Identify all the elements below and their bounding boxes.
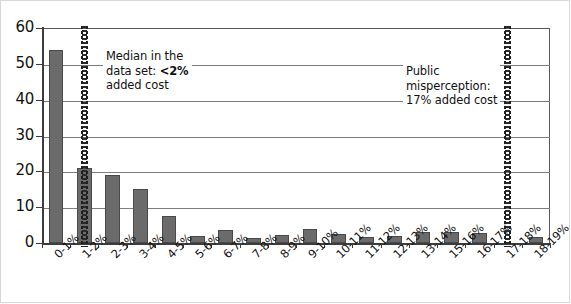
y-tick-mark-20 — [36, 171, 43, 172]
y-tick-label-10: 10 — [2, 199, 34, 214]
bar-0-1pct — [49, 50, 64, 244]
gridline-30 — [42, 137, 550, 138]
misperception-annotation-line3: 17% added cost — [406, 93, 497, 107]
y-tick-label-20: 20 — [2, 163, 34, 178]
bar-3-4pct — [133, 189, 148, 243]
y-tick-mark-30 — [36, 136, 43, 137]
misperception-annotation: Public misperception: 17% added cost — [403, 62, 500, 110]
y-tick-label-30: 30 — [2, 128, 34, 143]
y-tick-mark-10 — [36, 207, 43, 208]
y-tick-mark-40 — [36, 100, 43, 101]
y-tick-label-40: 40 — [2, 92, 34, 107]
gridline-20 — [42, 172, 550, 173]
y-tick-label-0: 0 — [2, 235, 34, 250]
median-annotation-line1: Median in the — [106, 49, 183, 63]
y-tick-mark-60 — [36, 28, 43, 29]
misperception-marker-line — [505, 26, 510, 247]
median-annotation-line3: added cost — [106, 78, 169, 92]
median-annotation-value: <2% — [160, 64, 189, 78]
bar-2-3pct — [105, 175, 120, 243]
misperception-annotation-line2: misperception: — [406, 79, 490, 93]
y-tick-mark-50 — [36, 64, 43, 65]
misperception-annotation-line1: Public — [406, 64, 439, 78]
median-marker-line — [82, 26, 87, 247]
median-annotation-line2-prefix: data set: — [106, 64, 160, 78]
x-tick-mark-0 — [42, 243, 43, 248]
median-annotation: Median in the data set: <2% added cost — [103, 47, 192, 95]
chart-figure: 0102030405060 0-1%1-2%2-3%3-4%4-5%5-6%6-… — [0, 0, 571, 304]
y-tick-label-50: 50 — [2, 56, 34, 71]
y-tick-label-60: 60 — [2, 20, 34, 35]
